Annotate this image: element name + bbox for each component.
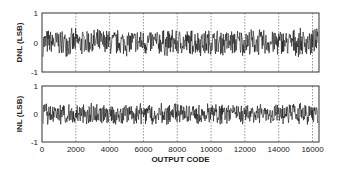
- y-axis-label: INL (LSB): [15, 96, 24, 133]
- y-axis-label: DNL (LSB): [15, 22, 24, 62]
- x-tick-label: 2000: [67, 145, 85, 154]
- x-tick-label: 0: [40, 145, 45, 154]
- chart: 10-1DNL (LSB) 10-1INL (LSB)0200040006000…: [0, 0, 341, 169]
- y-tick-label: -1: [31, 138, 39, 147]
- x-tick-label: 6000: [135, 145, 153, 154]
- x-tick-label: 8000: [168, 145, 186, 154]
- inl-plot: 10-1INL (LSB)020004000600080001000012000…: [15, 82, 324, 164]
- x-tick-label: 16000: [301, 145, 324, 154]
- y-tick-label: 1: [34, 9, 39, 18]
- y-tick-label: 0: [34, 110, 39, 119]
- x-tick-label: 4000: [101, 145, 119, 154]
- dnl-plot: 10-1DNL (LSB): [15, 9, 319, 77]
- y-tick-label: 0: [34, 39, 39, 48]
- y-tick-label: 1: [34, 82, 39, 91]
- data-trace: [43, 103, 318, 125]
- data-trace: [43, 28, 318, 57]
- x-tick-label: 14000: [268, 145, 291, 154]
- x-axis-label: OUTPUT CODE: [151, 155, 210, 164]
- x-tick-label: 12000: [234, 145, 257, 154]
- y-tick-label: -1: [31, 68, 39, 77]
- x-tick-label: 10000: [200, 145, 223, 154]
